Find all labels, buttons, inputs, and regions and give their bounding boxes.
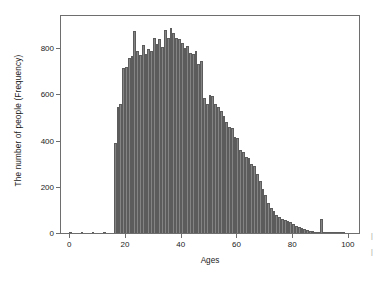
histogram-bar bbox=[342, 232, 345, 233]
y-axis-tick-mark bbox=[56, 187, 60, 188]
histogram-bars bbox=[61, 16, 359, 233]
x-axis-label: Ages bbox=[60, 256, 360, 265]
x-axis-tick-mark bbox=[125, 234, 126, 238]
y-axis-tick-label: 0 bbox=[28, 229, 54, 238]
histogram-bar bbox=[69, 232, 72, 233]
x-axis-tick-mark bbox=[181, 234, 182, 238]
y-axis-label: The number of people (Frequency) bbox=[14, 21, 23, 221]
y-axis-tick-label: 400 bbox=[28, 136, 54, 145]
y-axis-tick-mark bbox=[56, 141, 60, 142]
histogram-bar bbox=[320, 219, 323, 233]
y-axis-tick-mark bbox=[56, 233, 60, 234]
x-axis-tick-label: 100 bbox=[335, 240, 361, 249]
x-axis-tick-mark bbox=[292, 234, 293, 238]
x-axis-tick-mark bbox=[69, 234, 70, 238]
x-axis-tick-mark bbox=[236, 234, 237, 238]
histogram-figure: The number of people (Frequency) 0200400… bbox=[0, 0, 377, 285]
x-axis-tick-label: 80 bbox=[279, 240, 305, 249]
y-axis-tick-mark bbox=[56, 94, 60, 95]
x-axis-tick-mark bbox=[348, 234, 349, 238]
y-axis-tick-label: 200 bbox=[28, 182, 54, 191]
x-axis-tick-label: 60 bbox=[223, 240, 249, 249]
histogram-bar bbox=[103, 232, 106, 233]
x-axis-tick-label: 40 bbox=[168, 240, 194, 249]
page-edge-mark-top: | bbox=[371, 232, 373, 239]
x-axis-tick-label: 20 bbox=[112, 240, 138, 249]
page-edge-mark-bottom: | bbox=[371, 248, 373, 255]
x-axis-tick-label: 0 bbox=[56, 240, 82, 249]
y-axis-tick-label: 600 bbox=[28, 90, 54, 99]
y-axis-tick-mark bbox=[56, 48, 60, 49]
histogram-bar bbox=[81, 232, 84, 233]
y-axis-tick-labels: 0200400600800 bbox=[26, 0, 54, 285]
y-axis-tick-label: 800 bbox=[28, 44, 54, 53]
histogram-bar bbox=[92, 232, 95, 233]
